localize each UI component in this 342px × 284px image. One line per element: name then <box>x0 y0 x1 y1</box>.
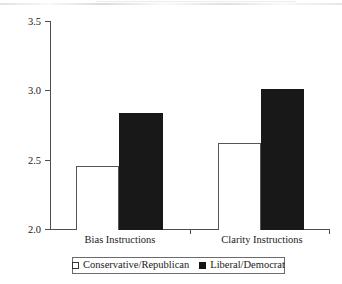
legend-swatch-open-icon <box>72 262 79 269</box>
bar-liberal-bias-instructions <box>119 113 163 230</box>
bar-liberal-clarity-instructions <box>261 89 304 230</box>
legend-swatch-filled-icon <box>199 262 206 269</box>
legend-item-liberal: Liberal/Democrat <box>199 260 285 271</box>
bar-chart-figure: Perceptions of Article Bias 3.5 3.0 2.5 … <box>0 0 342 284</box>
y-axis-line <box>50 21 51 229</box>
y-tick-3-5: 3.5 <box>45 21 50 22</box>
y-tick-3-0: 3.0 <box>45 90 50 91</box>
x-axis-label-bias-instructions: Bias Instructions <box>60 235 180 246</box>
y-tick-label-3-0: 3.0 <box>28 85 41 96</box>
y-tick-label-3-5: 3.5 <box>28 16 41 27</box>
legend-item-conservative: Conservative/Republican <box>72 260 189 271</box>
y-tick-2-5: 2.5 <box>45 160 50 161</box>
legend-label-conservative: Conservative/Republican <box>83 260 189 271</box>
y-tick-label-2-5: 2.5 <box>28 155 41 166</box>
bar-conservative-bias-instructions <box>76 166 119 230</box>
bar-conservative-clarity-instructions <box>218 143 261 230</box>
x-tick-midpoint <box>190 229 191 234</box>
legend-label-liberal: Liberal/Democrat <box>210 260 285 271</box>
x-axis-label-clarity-instructions: Clarity Instructions <box>200 235 324 246</box>
scan-artifact <box>0 3 342 5</box>
scan-artifact-secondary <box>96 1 296 2</box>
y-tick-label-2-0: 2.0 <box>28 224 41 235</box>
y-tick-2-0: 2.0 <box>45 229 50 230</box>
x-tick-right-end <box>329 229 330 234</box>
legend: Conservative/Republican Liberal/Democrat <box>72 257 285 274</box>
